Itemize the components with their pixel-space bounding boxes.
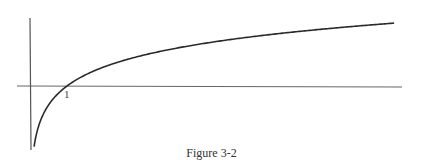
figure-caption: Figure 3-2 xyxy=(0,146,423,160)
y-axis xyxy=(30,18,31,150)
caption-text: Figure 3-2 xyxy=(186,146,236,160)
x-axis xyxy=(17,86,402,87)
log-chart: 1 xyxy=(0,0,423,160)
tick-label-one: 1 xyxy=(64,88,70,100)
ln-curve xyxy=(34,23,394,147)
